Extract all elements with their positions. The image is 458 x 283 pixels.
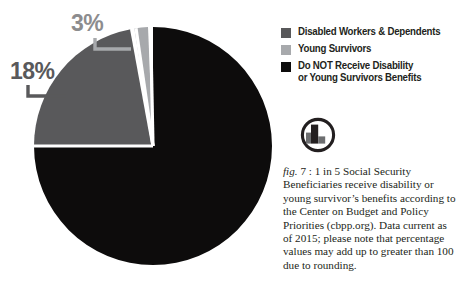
legend-swatch-no-benefits xyxy=(281,62,291,72)
pie-chart-graphic xyxy=(0,0,280,283)
figure-caption: fig. 7 : 1 in 5 Social Security Benefici… xyxy=(283,165,457,272)
legend-item-young-survivors: Young Survivors xyxy=(281,43,458,55)
legend-label-disabled-workers: Disabled Workers & Dependents xyxy=(298,26,440,38)
pie-label-3-percent: 3% xyxy=(71,12,103,35)
chart-legend: Disabled Workers & Dependents Young Surv… xyxy=(281,26,458,88)
legend-item-no-benefits: Do NOT Receive Disability or Young Survi… xyxy=(281,60,458,83)
pie-chart-region: 18% 3% xyxy=(0,0,280,283)
legend-label-no-benefits: Do NOT Receive Disability or Young Survi… xyxy=(298,60,421,83)
figure-caption-text: 7 : 1 in 5 Social Security Beneficiaries… xyxy=(283,165,456,271)
legend-swatch-disabled-workers xyxy=(281,28,291,38)
legend-swatch-young-survivors xyxy=(281,45,291,55)
pie-label-18-percent: 18% xyxy=(10,60,55,83)
legend-label-young-survivors: Young Survivors xyxy=(298,43,371,55)
figure-sidebar: Disabled Workers & Dependents Young Surv… xyxy=(281,0,458,283)
figure-caption-prefix: fig. xyxy=(283,165,298,177)
bar-chart-in-circle-icon xyxy=(300,117,336,153)
legend-item-disabled-workers: Disabled Workers & Dependents xyxy=(281,26,458,38)
